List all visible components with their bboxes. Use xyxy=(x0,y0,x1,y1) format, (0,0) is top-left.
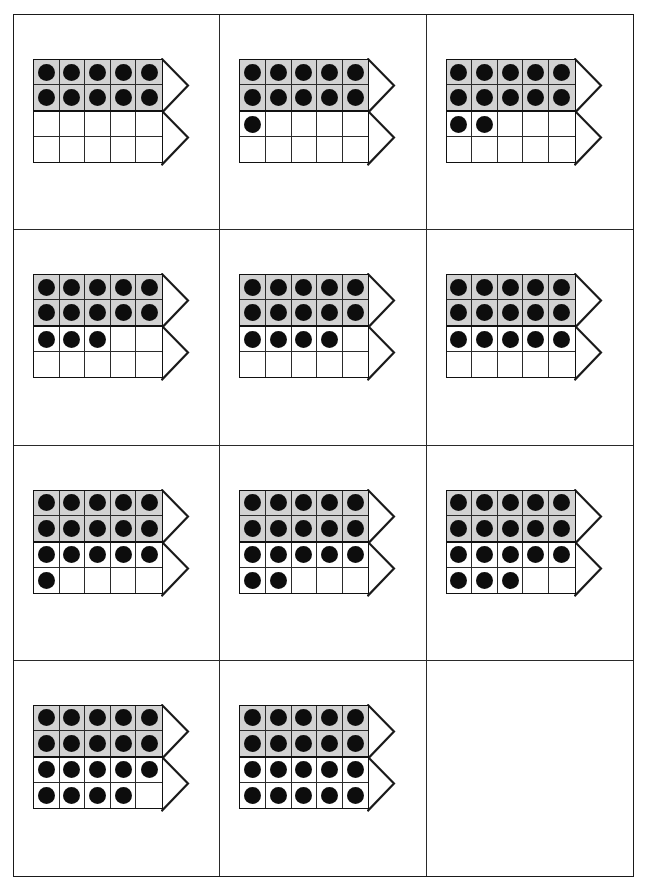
counter-dot-icon xyxy=(476,279,493,296)
frame-cell-empty xyxy=(60,352,86,377)
ten-frame-top xyxy=(33,274,163,326)
counter-dot-icon xyxy=(141,546,158,563)
worksheet-card-blank[interactable] xyxy=(427,661,633,876)
worksheet-card[interactable] xyxy=(220,446,426,661)
frame-cell-filled xyxy=(240,758,266,783)
frame-cell-empty xyxy=(266,352,292,377)
frame-cell-empty xyxy=(136,137,162,162)
frame-cell-filled xyxy=(136,731,162,756)
frame-cell-empty xyxy=(343,137,369,162)
ten-frame-top xyxy=(33,705,163,757)
frame-cell-empty xyxy=(472,137,498,162)
counter-dot-icon xyxy=(553,520,570,537)
counter-dot-icon xyxy=(321,735,338,752)
frame-cell-filled xyxy=(549,275,575,300)
worksheet-card[interactable] xyxy=(14,661,220,876)
frame-cell-filled xyxy=(240,275,266,300)
counter-dot-icon xyxy=(38,64,55,81)
ten-frame-top xyxy=(446,490,576,542)
counter-dot-icon xyxy=(244,546,261,563)
worksheet-card[interactable] xyxy=(14,446,220,661)
ten-frame-top-grid xyxy=(239,59,369,111)
frame-cell-filled xyxy=(523,275,549,300)
counter-dot-icon xyxy=(63,709,80,726)
counter-dot-icon xyxy=(527,64,544,81)
counter-dot-icon xyxy=(347,761,364,778)
frame-cell-filled xyxy=(549,516,575,541)
frame-cell-empty xyxy=(343,112,369,137)
frame-cell-filled xyxy=(240,706,266,731)
frame-cell-empty xyxy=(292,568,318,593)
counter-dot-icon xyxy=(270,735,287,752)
double-ten-frame-figure xyxy=(33,490,163,594)
frame-cell-empty xyxy=(60,568,86,593)
worksheet-card[interactable] xyxy=(427,446,633,661)
worksheet-card[interactable] xyxy=(427,230,633,445)
frame-cell-empty xyxy=(266,112,292,137)
worksheet-card[interactable] xyxy=(220,661,426,876)
counter-dot-icon xyxy=(38,304,55,321)
frame-cell-filled xyxy=(498,275,524,300)
frame-cell-filled xyxy=(292,275,318,300)
frame-cell-empty xyxy=(343,327,369,352)
counter-dot-icon xyxy=(553,331,570,348)
frame-cell-empty xyxy=(240,137,266,162)
frame-cell-filled xyxy=(498,543,524,568)
counter-dot-icon xyxy=(347,520,364,537)
frame-cell-empty xyxy=(266,137,292,162)
counter-dot-icon xyxy=(244,709,261,726)
frame-cell-filled xyxy=(317,491,343,516)
worksheet-card[interactable] xyxy=(220,230,426,445)
frame-cell-filled xyxy=(34,783,60,808)
ten-frame-top-grid xyxy=(446,274,576,326)
counter-dot-icon xyxy=(270,709,287,726)
right-arrow-icon xyxy=(574,58,604,112)
counter-dot-icon xyxy=(450,331,467,348)
ten-frame-top xyxy=(239,490,369,542)
frame-cell-filled xyxy=(34,543,60,568)
frame-cell-empty xyxy=(498,352,524,377)
frame-cell-filled xyxy=(292,60,318,85)
worksheet-card[interactable] xyxy=(14,15,220,230)
frame-cell-filled xyxy=(317,731,343,756)
ten-frame-top xyxy=(446,59,576,111)
frame-cell-filled xyxy=(34,758,60,783)
counter-dot-icon xyxy=(476,520,493,537)
frame-cell-filled xyxy=(549,543,575,568)
counter-dot-icon xyxy=(502,520,519,537)
ten-frame-top xyxy=(446,274,576,326)
counter-dot-icon xyxy=(63,761,80,778)
counter-dot-icon xyxy=(270,64,287,81)
counter-dot-icon xyxy=(270,520,287,537)
counter-dot-icon xyxy=(38,735,55,752)
counter-dot-icon xyxy=(347,709,364,726)
ten-frame-bottom xyxy=(33,542,163,594)
frame-cell-filled xyxy=(447,300,473,325)
frame-cell-filled xyxy=(60,60,86,85)
ten-frame-top-grid xyxy=(33,59,163,111)
worksheet-card[interactable] xyxy=(220,15,426,230)
frame-cell-filled xyxy=(447,60,473,85)
ten-frame-bottom-grid xyxy=(33,326,163,378)
counter-dot-icon xyxy=(476,494,493,511)
counter-dot-icon xyxy=(244,787,261,804)
frame-cell-filled xyxy=(136,758,162,783)
frame-cell-filled xyxy=(85,327,111,352)
counter-dot-icon xyxy=(476,572,493,589)
counter-dot-icon xyxy=(295,735,312,752)
counter-dot-icon xyxy=(502,89,519,106)
frame-cell-empty xyxy=(111,137,137,162)
frame-cell-filled xyxy=(292,783,318,808)
counter-dot-icon xyxy=(115,761,132,778)
frame-cell-filled xyxy=(266,758,292,783)
right-arrow-icon xyxy=(367,756,397,810)
worksheet-card[interactable] xyxy=(427,15,633,230)
frame-cell-filled xyxy=(60,731,86,756)
frame-cell-filled xyxy=(472,85,498,110)
worksheet-card[interactable] xyxy=(14,230,220,445)
ten-frame-top xyxy=(33,490,163,542)
counter-dot-icon xyxy=(553,279,570,296)
frame-cell-filled xyxy=(34,327,60,352)
ten-frame-bottom-grid xyxy=(446,111,576,163)
counter-dot-icon xyxy=(527,520,544,537)
